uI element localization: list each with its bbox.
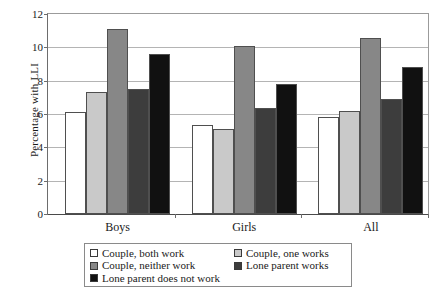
bar <box>107 29 128 214</box>
y-tick-mark <box>44 181 48 182</box>
y-tick-label: 12 <box>32 8 43 20</box>
legend-item[interactable]: Lone parent does not work <box>90 273 234 284</box>
chart-legend: Couple, both workCouple, one worksCouple… <box>84 243 352 287</box>
category-label-girls: Girls <box>232 220 256 235</box>
bar <box>65 112 86 215</box>
legend-label: Couple, one works <box>246 248 329 259</box>
bar <box>381 99 402 214</box>
chart-figure: Percentage with LLI 024681012 BoysGirlsA… <box>0 0 437 296</box>
legend-swatch-icon <box>90 274 98 282</box>
bar <box>149 54 170 214</box>
bar <box>360 38 381 214</box>
legend-label: Couple, neither work <box>102 260 195 271</box>
legend-item[interactable]: Couple, one works <box>234 248 329 259</box>
legend-row: Couple, both workCouple, one works <box>90 247 346 260</box>
legend-row: Couple, neither workLone parent works <box>90 260 346 273</box>
category-label-all: All <box>363 220 378 235</box>
x-tick-mark <box>428 214 429 218</box>
bar <box>255 108 276 214</box>
y-tick-label: 2 <box>38 175 44 187</box>
legend-item[interactable]: Couple, both work <box>90 248 234 259</box>
legend-label: Lone parent does not work <box>102 273 220 284</box>
y-tick-label: 10 <box>32 41 43 53</box>
y-tick-label: 8 <box>38 75 44 87</box>
legend-item[interactable]: Lone parent works <box>234 260 328 271</box>
y-tick-label: 4 <box>38 141 44 153</box>
x-tick-mark <box>175 214 176 218</box>
bar <box>128 89 149 214</box>
plot-area: 024681012 BoysGirlsAll <box>47 13 429 215</box>
legend-swatch-icon <box>90 249 98 257</box>
x-tick-mark <box>301 214 302 218</box>
bar <box>234 46 255 214</box>
y-tick-label: 0 <box>38 208 44 220</box>
y-tick-mark <box>44 147 48 148</box>
legend-swatch-icon <box>234 249 242 257</box>
bar <box>192 125 213 214</box>
bar <box>86 92 107 214</box>
legend-row: Lone parent does not work <box>90 272 346 285</box>
y-tick-mark <box>44 114 48 115</box>
legend-label: Couple, both work <box>102 248 184 259</box>
bar <box>402 67 423 214</box>
bar <box>318 117 339 215</box>
y-tick-mark <box>44 214 48 215</box>
legend-swatch-icon <box>234 262 242 270</box>
y-tick-mark <box>44 47 48 48</box>
legend-label: Lone parent works <box>246 260 328 271</box>
y-tick-mark <box>44 81 48 82</box>
legend-swatch-icon <box>90 262 98 270</box>
bar <box>213 129 234 214</box>
y-tick-mark <box>44 14 48 15</box>
legend-item[interactable]: Couple, neither work <box>90 260 234 271</box>
y-tick-label: 6 <box>38 108 44 120</box>
category-label-boys: Boys <box>105 220 130 235</box>
bar <box>276 84 297 214</box>
bar <box>339 111 360 214</box>
